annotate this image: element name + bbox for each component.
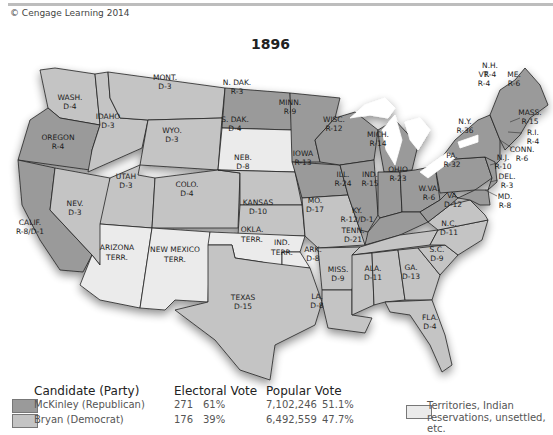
svg-text:D-11: D-11 — [364, 273, 382, 282]
state-colo — [152, 170, 240, 228]
svg-text:NEB.: NEB. — [234, 153, 252, 162]
svg-text:R-9: R-9 — [284, 107, 297, 116]
svg-text:ARK.: ARK. — [304, 245, 322, 254]
democrat-pv-pct: 47.7% — [322, 414, 354, 425]
svg-text:LA.: LA. — [311, 292, 323, 301]
svg-text:S. DAK.: S. DAK. — [221, 115, 249, 124]
svg-text:R-32: R-32 — [443, 160, 460, 169]
svg-text:R-4: R-4 — [484, 70, 497, 79]
svg-text:TERR.: TERR. — [240, 235, 263, 244]
svg-text:FLA.: FLA. — [422, 313, 438, 322]
svg-text:MASS.: MASS. — [518, 108, 542, 117]
svg-text:R-12/D-1: R-12/D-1 — [341, 215, 374, 224]
svg-text:UTAH: UTAH — [116, 172, 136, 181]
svg-text:R-3: R-3 — [231, 87, 244, 96]
state-miss — [352, 253, 374, 315]
svg-text:TERR.: TERR. — [163, 255, 186, 264]
svg-text:R-14: R-14 — [369, 139, 386, 148]
svg-text:COLO.: COLO. — [175, 180, 198, 189]
svg-text:IDAHO: IDAHO — [96, 112, 121, 121]
svg-text:ARIZONA: ARIZONA — [100, 243, 135, 252]
svg-text:IOWA: IOWA — [293, 149, 314, 158]
svg-text:W.VA.: W.VA. — [419, 184, 440, 193]
svg-text:R-15: R-15 — [361, 179, 378, 188]
svg-text:GA.: GA. — [404, 263, 417, 272]
republican-ev: 271 — [174, 399, 193, 410]
svg-text:CONN.: CONN. — [510, 145, 535, 154]
svg-text:OKLA.: OKLA. — [241, 225, 264, 234]
legend-electoral-header: Electoral Vote — [174, 384, 257, 398]
svg-text:ALA.: ALA. — [365, 264, 382, 273]
svg-text:R-4: R-4 — [52, 142, 65, 151]
svg-text:WYO.: WYO. — [162, 126, 182, 135]
state-fla — [385, 300, 452, 372]
svg-text:MD.: MD. — [498, 192, 513, 201]
republican-ev-pct: 61% — [203, 399, 225, 410]
svg-text:R-4: R-4 — [478, 79, 491, 88]
svg-text:R-6: R-6 — [516, 154, 529, 163]
svg-text:D-3: D-3 — [68, 208, 81, 217]
svg-text:D-9: D-9 — [430, 254, 443, 263]
legend-candidate-header: Candidate (Party) — [34, 384, 139, 398]
svg-text:TENN.: TENN. — [341, 226, 365, 235]
svg-text:ME.: ME. — [507, 70, 521, 79]
svg-text:TEXAS: TEXAS — [230, 293, 256, 302]
republican-pv-pct: 51.1% — [322, 399, 354, 410]
svg-text:D-8: D-8 — [306, 254, 319, 263]
svg-text:OHIO: OHIO — [388, 165, 408, 174]
republican-pv: 7,102,246 — [266, 399, 317, 410]
svg-text:N.C.: N.C. — [441, 219, 457, 228]
svg-text:D-8: D-8 — [310, 301, 323, 310]
legend-popular-header: Popular Vote — [266, 384, 342, 398]
svg-text:D-8: D-8 — [236, 162, 249, 171]
svg-text:PA.: PA. — [446, 151, 457, 160]
svg-text:D-10: D-10 — [249, 207, 267, 216]
democrat-ev-pct: 39% — [203, 414, 225, 425]
svg-text:D-3: D-3 — [158, 82, 171, 91]
democrat-ev: 176 — [174, 414, 193, 425]
svg-text:KY.: KY. — [352, 206, 362, 215]
svg-text:R-24: R-24 — [334, 179, 351, 188]
svg-text:R-10: R-10 — [494, 162, 511, 171]
svg-text:N. DAK.: N. DAK. — [223, 78, 251, 87]
svg-text:NEV.: NEV. — [67, 199, 84, 208]
svg-text:WASH.: WASH. — [58, 93, 83, 102]
svg-text:R-12: R-12 — [325, 124, 342, 133]
legend-republican-label: McKinley (Republican) — [34, 399, 145, 410]
svg-text:N.Y.: N.Y. — [458, 117, 471, 126]
svg-text:D-4: D-4 — [63, 102, 76, 111]
svg-text:D-12: D-12 — [444, 200, 462, 209]
svg-text:OREGON: OREGON — [41, 133, 74, 142]
svg-text:TERR.: TERR. — [105, 253, 128, 262]
svg-text:R-8/D-1: R-8/D-1 — [16, 227, 44, 236]
svg-text:R-15: R-15 — [521, 117, 538, 126]
svg-text:VA.: VA. — [447, 191, 459, 200]
svg-text:R-3: R-3 — [501, 181, 514, 190]
svg-text:R-6: R-6 — [423, 193, 436, 202]
svg-text:DEL.: DEL. — [498, 172, 515, 181]
svg-text:ILL.: ILL. — [337, 170, 350, 179]
state-sdak — [218, 128, 295, 172]
svg-text:MINN.: MINN. — [279, 98, 301, 107]
democrat-pv: 6,492,559 — [266, 414, 317, 425]
svg-text:D-3: D-3 — [101, 121, 114, 130]
svg-text:MO.: MO. — [308, 196, 322, 205]
svg-text:D-3: D-3 — [119, 181, 132, 190]
svg-text:N.H.: N.H. — [482, 61, 498, 70]
svg-text:NEW MEXICO: NEW MEXICO — [150, 245, 200, 254]
territory-note-line2: reservations, unsettled, etc. — [427, 412, 553, 434]
svg-text:MICH.: MICH. — [367, 130, 389, 139]
svg-text:R-36: R-36 — [456, 126, 473, 135]
us-election-map: WASH.D-4 OREGONR-4 CALIF.R-8/D-1 NEV.D-3… — [0, 0, 553, 435]
svg-text:IND.: IND. — [274, 238, 290, 247]
svg-text:IND.: IND. — [362, 170, 378, 179]
svg-text:R.I.: R.I. — [527, 128, 539, 137]
legend-democrat-label: Bryan (Democrat) — [34, 414, 124, 425]
svg-text:MONT.: MONT. — [153, 73, 177, 82]
svg-text:D-17: D-17 — [306, 205, 324, 214]
svg-text:D-4: D-4 — [180, 189, 193, 198]
svg-text:TERR.: TERR. — [270, 248, 293, 257]
terr-newmexico — [140, 228, 210, 310]
svg-text:MISS.: MISS. — [328, 265, 349, 274]
svg-text:CALIF.: CALIF. — [19, 218, 41, 227]
